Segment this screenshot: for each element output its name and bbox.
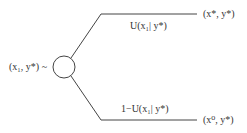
root-label: (x₁, y*) ~: [9, 61, 47, 73]
lower-outcome-label: (x⁰, y*): [203, 114, 234, 126]
upper-probability-label: U(x₁| y*): [130, 20, 167, 32]
chance-node: [53, 56, 75, 78]
lower-probability-label: 1−U(x₁| y*): [121, 103, 169, 115]
upper-outcome-label: (x*, y*): [203, 8, 235, 20]
